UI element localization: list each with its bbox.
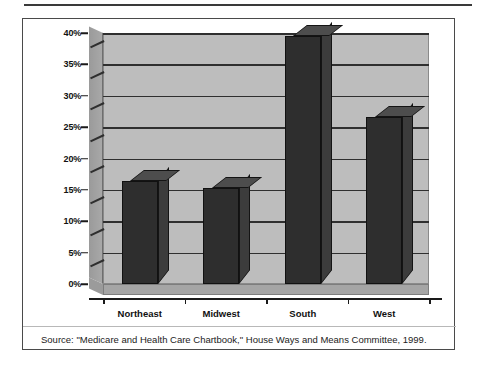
y-axis-tick-label: 35% — [37, 59, 81, 69]
y-axis-tick-label: 30% — [37, 91, 81, 101]
x-axis-label-northeast: Northeast — [118, 308, 162, 319]
figure-container: 0%5%10%15%20%25%30%35%40% NortheastMidwe… — [22, 18, 455, 350]
bar-midwest — [203, 188, 239, 284]
bar-front-face — [285, 36, 321, 284]
bar-front-face — [122, 181, 158, 284]
bar-front-face — [203, 188, 239, 284]
y-axis-tick-mark — [81, 221, 88, 223]
y-axis-tick-mark — [81, 126, 88, 128]
y-axis-tick-label: 5% — [37, 248, 81, 258]
x-axis-label-west: West — [373, 308, 396, 319]
bar-side-face — [158, 167, 169, 284]
source-note: Source: "Medicare and Health Care Chartb… — [41, 334, 427, 345]
bar-northeast — [122, 181, 158, 284]
gridline — [103, 96, 429, 98]
y-axis-tick-label: 10% — [37, 216, 81, 226]
y-axis-tick-mark — [81, 283, 88, 285]
plot-floor — [103, 284, 429, 295]
plot-area — [89, 33, 429, 310]
top-divider-rule — [24, 4, 472, 6]
x-axis-tick-mark — [348, 298, 350, 304]
gridline — [103, 64, 429, 66]
bar-south — [285, 36, 321, 284]
plot-left-wall — [89, 26, 103, 284]
x-axis-label-midwest: Midwest — [203, 308, 240, 319]
source-divider — [23, 326, 456, 327]
bar-west — [366, 117, 402, 284]
y-axis-tick-mark — [81, 252, 88, 254]
bar-front-face — [366, 117, 402, 284]
y-axis: 0%5%10%15%20%25%30%35%40% — [35, 19, 81, 309]
bar-side-face — [321, 21, 332, 284]
bar-chart: 0%5%10%15%20%25%30%35%40% NortheastMidwe… — [23, 19, 456, 309]
x-axis-tick-mark — [103, 298, 105, 304]
x-axis-label-south: South — [289, 308, 316, 319]
y-axis-tick-label: 25% — [37, 122, 81, 132]
y-axis-tick-mark — [81, 158, 88, 160]
y-axis-tick-mark — [81, 64, 88, 66]
gridline — [103, 33, 429, 35]
y-axis-tick-label: 0% — [37, 279, 81, 289]
y-axis-tick-label: 20% — [37, 154, 81, 164]
y-axis-tick-label: 40% — [37, 28, 81, 38]
bar-side-face — [402, 103, 413, 284]
x-axis-tick-mark — [185, 298, 187, 304]
bar-side-face — [239, 174, 250, 284]
y-axis-tick-mark — [81, 189, 88, 191]
y-axis-tick-label: 15% — [37, 185, 81, 195]
x-axis-tick-mark — [429, 298, 431, 304]
y-axis-tick-mark — [81, 95, 88, 97]
x-axis-tick-mark — [266, 298, 268, 304]
y-axis-tick-mark — [81, 32, 88, 34]
